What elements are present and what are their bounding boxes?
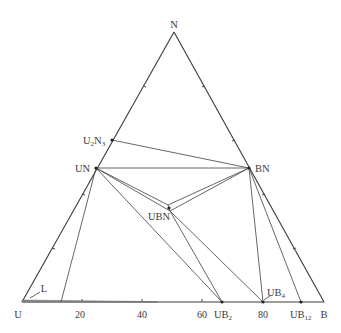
base-tick-40: 40	[137, 309, 147, 320]
phase-label-u2n3: U2N3	[83, 135, 106, 148]
phase-label-ub4: UB4	[267, 287, 286, 300]
tie-ubn-ub4	[170, 211, 263, 302]
tie-bn-ubn-b	[170, 168, 249, 211]
tie-u2n3-bn	[112, 140, 249, 168]
tie-bn-ubn-a	[168, 168, 249, 205]
phase-label-un: UN	[75, 163, 91, 174]
phase-label-ubn: UBN	[148, 211, 171, 222]
phase-label-bn: BN	[255, 163, 270, 174]
liquid-leader-line	[30, 292, 40, 298]
point-ub12	[299, 300, 302, 303]
tie-un-ubn-a	[96, 168, 168, 205]
base-tick-80: 80	[258, 309, 268, 320]
edge-u-n	[22, 32, 174, 302]
point-ubn	[167, 206, 170, 209]
point-u2n3	[110, 138, 113, 141]
tie-un-l	[61, 168, 96, 302]
point-ub4	[261, 300, 264, 303]
triangle-frame	[22, 32, 324, 302]
phase-label-ub12: UB12	[290, 309, 312, 322]
corner-label-n: N	[170, 19, 178, 30]
phase-label-ub2: UB2	[214, 309, 233, 322]
tie-bn-ub12	[249, 168, 301, 302]
point-bn	[247, 166, 250, 169]
tie-un-ub2	[96, 168, 222, 302]
base-tick-60: 60	[197, 309, 207, 320]
corner-label-u: U	[14, 309, 22, 320]
phase-points	[94, 138, 302, 303]
corner-label-b: B	[320, 309, 327, 320]
point-ub2	[220, 300, 223, 303]
base-tick-20: 20	[75, 309, 85, 320]
liquid-label: L	[41, 283, 47, 294]
tie-ubn-ub2	[170, 211, 222, 302]
tie-un-ubn-b	[96, 168, 170, 211]
liquid-region	[22, 300, 157, 302]
ternary-phase-diagram: N U B 20 40 60 80 L U2N3 UN BN UBN UB2 U…	[0, 0, 341, 333]
point-un	[94, 166, 97, 169]
